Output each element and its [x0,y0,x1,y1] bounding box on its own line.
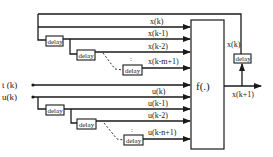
input-tap-2 [71,109,77,123]
feedback-label: x(k) [227,40,241,49]
u-k-1-label: u(k-1) [148,99,168,108]
state-dashed-link [103,53,123,70]
narx-block-diagram: delay delay : delay x(k) x(k-1) x(k-2) x… [0,0,273,157]
function-block-label: f(.) [196,80,210,93]
state-delay-1-label: delay [48,38,64,46]
state-delay-2-label: delay [79,52,95,60]
input-delay-3-label: delay [126,137,142,145]
u-k-n1-label: u(k-n+1) [148,128,177,137]
u-input-label: u(k) [2,92,17,102]
input-section: t (k) u(k) delay delay : delay u(k) u(k-… [2,80,190,145]
state-delay-3-label: delay [125,67,141,75]
u-k-label: u(k) [152,87,166,96]
input-delay-2-label: delay [79,121,95,129]
x-k-label: x(k) [150,17,164,26]
output-label: x(k+1) [232,90,254,99]
state-tap-2 [70,39,77,54]
x-k-2-label: x(k-2) [148,42,168,51]
x-k-m1-label: x(k-m+1) [148,57,179,66]
state-ellipsis: : [130,55,132,63]
input-ellipsis: : [131,126,133,134]
u-k-2-label: u(k-2) [148,111,168,120]
x-k-1-label: x(k-1) [148,29,168,38]
feedback-delay-label: delay [236,55,252,63]
input-dashed-link [104,123,124,140]
input-tap-vertical [38,97,46,109]
t-input-label: t (k) [2,80,17,90]
input-delay-1-label: delay [48,107,64,115]
